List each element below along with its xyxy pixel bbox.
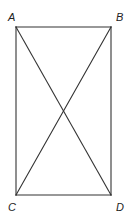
- rectangle-diagram: A B C D: [0, 0, 130, 219]
- segments-group: [16, 27, 111, 195]
- vertex-label-a: A: [7, 11, 15, 23]
- vertex-label-d: D: [116, 201, 124, 213]
- vertex-label-b: B: [116, 11, 123, 23]
- vertex-label-c: C: [8, 201, 16, 213]
